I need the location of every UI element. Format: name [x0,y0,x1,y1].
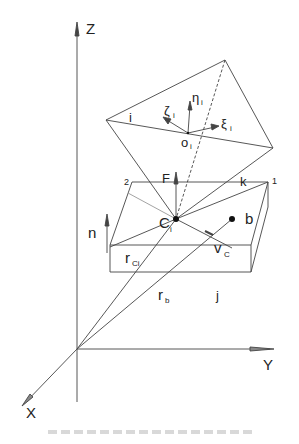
label-velocity-sub: C [224,250,230,259]
figure-caption: [caption illegible at this resolution] [0,426,299,438]
label-r-ci: r [125,249,130,266]
normal-arrow-icon [105,214,109,226]
diagram-figure: Z Y X i o i η i ζ i ξ i F 2 1 k n C i b … [0,0,299,444]
z-axis-arrow-icon [75,22,79,36]
label-xi-sub: i [230,124,232,133]
label-body-point: b [245,210,253,227]
label-corner-1: 1 [272,176,277,186]
label-normal: n [88,224,96,241]
label-origin-sub: i [190,142,192,151]
y-axis-label: Y [263,356,273,373]
body-point-dot [229,216,235,222]
label-zeta-sub: i [173,111,175,120]
y-axis-arrow-icon [250,347,274,351]
diagram-canvas: Z Y X i o i η i ζ i ξ i F 2 1 k n C i b … [0,0,299,444]
label-force: F [162,171,170,186]
label-r-b: r [158,286,163,303]
label-eta-sub: i [201,98,203,107]
label-contact-point: C [159,214,170,231]
label-origin: o [181,135,188,150]
z-axis-label: Z [86,20,95,37]
r-b-vector [77,219,232,349]
contact-point-dot [173,216,179,222]
label-block-face-j: j [215,288,219,303]
origin-point-dot [187,132,189,134]
label-zeta: ζ [164,103,170,118]
label-r-ci-sub: Ci [132,259,140,268]
label-r-b-sub: b [165,296,170,305]
force-arrow-icon [174,172,178,184]
label-i: i [129,110,132,125]
label-contact-sub: i [170,225,172,234]
label-eta: η [192,90,199,105]
local-frame [163,101,219,133]
label-velocity: v [214,239,222,256]
x-axis-label: X [26,404,36,421]
label-xi: ξ [221,116,227,131]
label-corner-2: 2 [124,177,129,187]
label-edge-k: k [240,174,247,189]
